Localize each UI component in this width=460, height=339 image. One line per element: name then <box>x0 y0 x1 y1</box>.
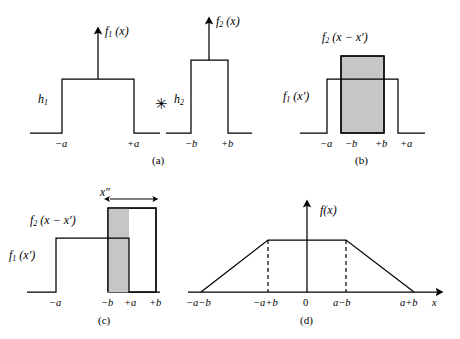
convolution-figure: f1 (x) h1 ✳ f2 (x) h2 −a +a −b +b (a) f2… <box>0 0 460 339</box>
panel-d-plot <box>188 205 438 292</box>
panel-label-b: (b) <box>355 154 368 166</box>
tick-minus-a-panel-a: −a <box>55 138 67 149</box>
tick-minus-a-minus-b: −a−b <box>186 297 211 308</box>
d-x-axis-label: x <box>432 297 437 308</box>
x-double-prime-label: x″ <box>100 186 110 198</box>
tick-plus-b-panel-a: +b <box>221 138 233 149</box>
x-double-prime-text: x″ <box>100 186 110 198</box>
h1-label: h1 <box>38 92 48 107</box>
tick-minus-b-panel-a: −b <box>185 138 197 149</box>
panel-b-plot <box>300 56 425 133</box>
figure-svg <box>0 0 460 339</box>
f1-prime-rest-c: (x′) <box>16 248 35 262</box>
f2-label-rest: (x) <box>223 14 239 28</box>
f-of-x-label: f(x) <box>320 203 337 218</box>
panel-a-f2-plot <box>166 22 252 133</box>
tick-plus-b-panel-b: +b <box>375 138 387 149</box>
tick-minus-a-panel-b: −a <box>320 138 332 149</box>
f2-shift-rest-b: (x − x′) <box>329 30 367 44</box>
tick-minus-b-panel-b: −b <box>345 138 357 149</box>
f2-shaded-rect <box>341 56 384 133</box>
panel-label-a: (a) <box>152 154 164 166</box>
f2-shift-rest-c: (x − x′) <box>37 213 75 227</box>
tick-minus-a-plus-b: −a+b <box>253 297 278 308</box>
f1-function-label: f1 (x) <box>105 24 129 39</box>
tick-plus-a-panel-c: +a <box>124 297 136 308</box>
tick-minus-a-panel-c: −a <box>49 297 61 308</box>
tick-a-minus-b: a−b <box>333 297 351 308</box>
panel-a-f1-plot <box>30 32 160 133</box>
f2-shift-label-c: f2 (x − x′) <box>30 213 76 228</box>
f1-prime-rest-b: (x′) <box>290 89 309 103</box>
h1-label-sub: 1 <box>44 98 48 107</box>
panel-label-c: (c) <box>98 314 110 326</box>
tick-plus-a-panel-a: +a <box>127 138 139 149</box>
f1-prime-label-b: f1 (x′) <box>283 89 309 104</box>
f1-rect-outline <box>30 79 160 133</box>
overlap-shaded-region <box>108 208 129 292</box>
tick-minus-b-panel-c: −b <box>101 297 113 308</box>
tick-a-plus-b: a+b <box>400 297 418 308</box>
tick-plus-a-panel-b: +a <box>400 138 412 149</box>
tick-plus-b-panel-c: +b <box>149 297 161 308</box>
h2-label-sub: 2 <box>180 98 184 107</box>
convolution-operator: ✳ <box>155 95 168 113</box>
h2-label: h2 <box>174 92 184 107</box>
f2-function-label: f2 (x) <box>216 14 240 29</box>
f1-label-rest: (x) <box>112 24 128 38</box>
tick-zero: 0 <box>303 297 308 308</box>
f2-shift-label-b: f2 (x − x′) <box>322 30 368 45</box>
panel-label-d: (d) <box>300 314 313 326</box>
f1-prime-label-c: f1 (x′) <box>9 248 35 263</box>
